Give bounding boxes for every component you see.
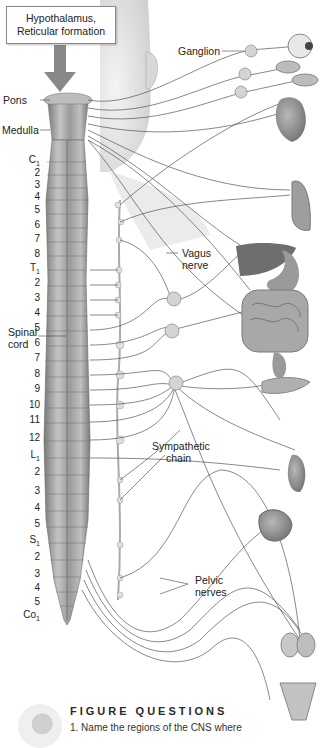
spinal-segment-label: 8 <box>16 369 40 379</box>
spinal-segment-label: 5 <box>16 205 40 215</box>
spinal-segment-label: 3 <box>16 293 40 303</box>
label-sympathetic-1: Sympathetic <box>152 440 210 452</box>
spinal-segment-label: 5 <box>16 597 40 607</box>
callout-line2: Reticular formation <box>7 25 115 38</box>
hypothalamus-callout-box: Hypothalamus, Reticular formation <box>6 6 116 44</box>
eye-icon <box>288 34 313 58</box>
spinal-segment-label: 2 <box>16 552 40 562</box>
spinal-segment-label: Co1 <box>16 610 40 624</box>
kidney-icon <box>288 455 305 492</box>
spinal-segment-label: 4 <box>16 583 40 593</box>
spinal-segment-label: 3 <box>16 569 40 579</box>
spinal-segment-label: 4 <box>16 192 40 202</box>
head-silhouette <box>100 0 210 250</box>
spinal-segment-label: 6 <box>16 338 40 348</box>
lung-icon <box>292 181 310 230</box>
figure-questions-badge-icon <box>18 704 62 748</box>
label-sympathetic-2: chain <box>166 452 191 464</box>
callout-line1: Hypothalamus, <box>7 12 115 25</box>
spinal-segment-label: 2 <box>16 467 40 477</box>
label-vagus-2: nerve <box>182 259 208 271</box>
label-ganglion: Ganglion <box>178 45 220 57</box>
label-medulla: Medulla <box>2 124 39 136</box>
spinal-segment-label: L1 <box>16 450 40 464</box>
spinal-segment-label: 3 <box>16 180 40 190</box>
organs <box>236 34 318 720</box>
spinal-segment-label: T1 <box>16 263 40 277</box>
salivary-glands-icon <box>276 61 318 86</box>
spinal-segment-label: 3 <box>16 486 40 496</box>
spinal-segment-label: 2 <box>16 168 40 178</box>
brainstem <box>44 93 92 140</box>
spinal-segment-label: 5 <box>16 519 40 529</box>
spinal-segment-label: 2 <box>16 278 40 288</box>
spinal-segment-label: S1 <box>16 535 40 549</box>
spinal-segment-label: 4 <box>16 308 40 318</box>
spinal-segment-label: 8 <box>16 249 40 259</box>
uterus-icon <box>280 683 316 720</box>
spinal-segment-label: 5 <box>16 323 40 333</box>
figure-questions-title: FIGURE QUESTIONS <box>70 705 227 717</box>
sympathetic-chain <box>115 200 124 600</box>
spinal-segment-label: 4 <box>16 503 40 513</box>
heart-icon <box>276 97 306 142</box>
label-pons: Pons <box>3 94 27 106</box>
label-pelvic-2: nerves <box>195 586 227 598</box>
intestines-icon <box>242 290 308 352</box>
spinal-segment-label: 11 <box>16 415 40 425</box>
bladder-icon <box>259 510 292 541</box>
spinal-segment-label: 10 <box>16 400 40 410</box>
spinal-segment-label: 12 <box>16 433 40 443</box>
spinal-segment-label: 7 <box>16 234 40 244</box>
rectum-icon <box>272 352 286 378</box>
spinal-segment-label: 9 <box>16 384 40 394</box>
label-pelvic-1: Pelvic <box>195 574 223 586</box>
spinal-segment-label: 6 <box>16 220 40 230</box>
label-vagus-1: Vagus <box>182 247 211 259</box>
down-arrow-icon <box>44 45 76 92</box>
pancreas-icon <box>262 378 310 394</box>
spinal-segment-label: 7 <box>16 353 40 363</box>
figure-question-1: 1. Name the regions of the CNS where <box>70 722 242 733</box>
spinal-cord <box>44 140 90 625</box>
